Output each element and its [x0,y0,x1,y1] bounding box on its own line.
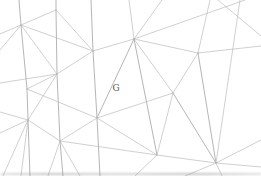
graph-edge [28,120,30,176]
graph-edge [157,155,216,163]
graph-edge [198,46,261,53]
graph-edge [60,141,63,176]
graph-edge [19,0,21,25]
graph-mesh-canvas [0,0,261,176]
graph-edge [97,118,157,155]
graph-edge [198,0,210,53]
graph-edge [0,10,56,34]
graph-edge [21,25,57,74]
graph-edge [216,140,261,163]
graph-edge [27,89,97,118]
graph-edge [134,39,157,155]
graph-edge [97,93,173,118]
graph-edge [134,39,173,93]
graph-edge [91,0,93,51]
graph-edge [60,118,97,141]
graph-edge [129,0,134,39]
graph-edge [0,112,28,120]
graph-edge [157,93,173,155]
graph-edge [57,51,93,74]
graph-figure: G [0,0,261,176]
graph-edge [48,141,60,176]
graph-edge [0,120,28,133]
graph-edge [97,39,134,118]
graph-edge [28,120,60,141]
graph-edge [93,51,97,118]
graph-edge [134,0,245,39]
graph-edge [56,10,93,51]
graph-edge [173,53,198,93]
graph-edge [134,39,198,53]
graph-edge [134,0,162,39]
graph-edge [0,25,21,50]
figure-bottom-edge [0,173,261,175]
graph-edge [56,10,57,74]
graph-edge [27,89,28,120]
graph-edge [216,0,240,163]
graph-edge [198,53,216,163]
graph-edge [173,93,216,163]
graph-edge [93,39,134,51]
graph-edge [216,163,261,167]
graph-edge [60,141,157,155]
graph-edge [57,74,60,141]
graph-name-label: G [112,84,119,93]
